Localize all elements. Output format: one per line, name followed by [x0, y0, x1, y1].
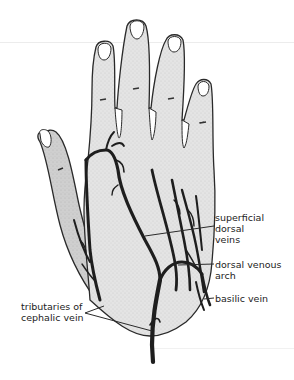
label-superficial-dorsal-veins: superficial dorsal veins	[215, 212, 264, 245]
label-line: arch	[215, 270, 281, 281]
hand-illustration	[0, 0, 294, 380]
label-dorsal-venous-arch: dorsal venous arch	[215, 259, 281, 281]
label-line: tributaries of	[21, 301, 84, 312]
label-tributaries-of-cephalic-vein: tributaries of cephalic vein	[21, 301, 84, 323]
label-basilic-vein: basilic vein	[215, 293, 268, 304]
label-line: cephalic vein	[21, 312, 84, 323]
hand-dorsum	[84, 20, 215, 336]
label-line: veins	[215, 234, 264, 245]
label-line: basilic vein	[215, 293, 268, 304]
label-line: dorsal venous	[215, 259, 281, 270]
label-line: superficial	[215, 212, 264, 223]
label-line: dorsal	[215, 223, 264, 234]
leader-basilic-vein	[204, 298, 214, 299]
diagram-canvas: superficial dorsal veins dorsal venous a…	[0, 0, 294, 380]
